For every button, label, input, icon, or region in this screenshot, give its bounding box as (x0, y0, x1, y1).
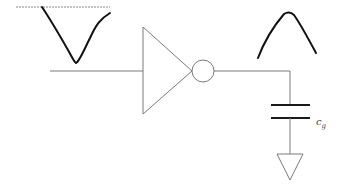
ground-icon (277, 154, 303, 180)
inverter-bubble (192, 60, 214, 82)
output-wire (214, 71, 290, 105)
capacitor-label: cg (316, 116, 327, 130)
input-waveform (42, 7, 110, 63)
inverter-triangle (143, 27, 192, 114)
output-waveform (258, 13, 316, 58)
inverter-circuit-diagram: cg (0, 0, 341, 191)
